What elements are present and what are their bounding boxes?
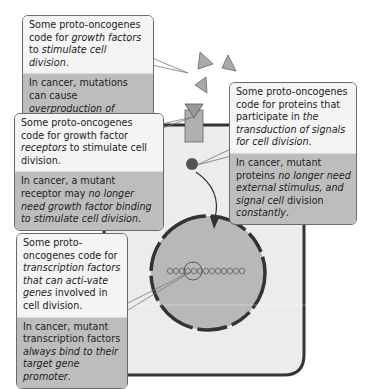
callout-signal-transduction: Some proto-oncogenes code for proteins t… (229, 82, 357, 225)
callout-normal: Some proto-oncogenes code for proteins t… (230, 83, 356, 153)
callout-normal: Some proto-oncogenes code for growth fac… (15, 114, 163, 171)
callout-receptors: Some proto-oncogenes code for growth fac… (14, 113, 164, 231)
callout-normal: Some proto-oncogenes code for growth fac… (23, 16, 153, 73)
callout-cancer: In cancer, mutant transcription factors … (17, 317, 127, 388)
callout-cancer: In cancer, mutant proteins no longer nee… (230, 153, 356, 224)
receptor-icon (185, 104, 203, 142)
callout-cancer: In cancer, a mutant receptor may no long… (15, 171, 163, 229)
signal-protein-icon (186, 158, 198, 170)
callout-transcription-factors: Some proto-oncogenes code for transcript… (16, 233, 128, 389)
callout-normal: Some proto-oncogenes code for transcript… (17, 234, 127, 317)
